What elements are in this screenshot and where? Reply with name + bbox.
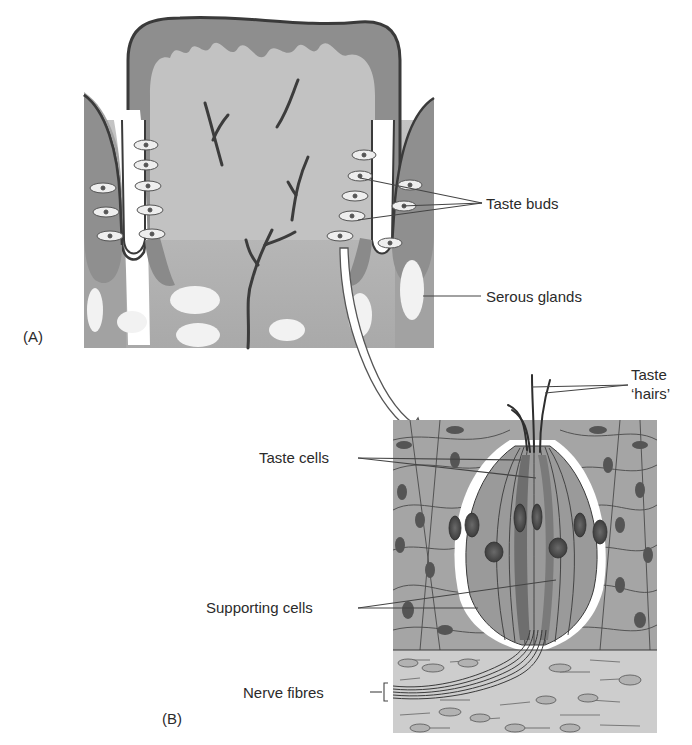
supporting-cells-label: Supporting cells (206, 599, 313, 616)
taste-cells-label: Taste cells (259, 449, 329, 466)
taste-hairs-label-line1: Taste (631, 366, 667, 383)
serous-glands-label: Serous glands (486, 288, 582, 305)
taste-buds-label: Taste buds (486, 195, 559, 212)
panel-a-label: (A) (23, 328, 43, 345)
panel-b-taste-bud (393, 375, 657, 733)
taste-bud-diagram (0, 0, 692, 745)
taste-hairs-label-line2: ‘hairs’ (631, 385, 670, 402)
nerve-fibres-label: Nerve fibres (243, 684, 324, 701)
panel-b-label: (B) (162, 710, 182, 727)
